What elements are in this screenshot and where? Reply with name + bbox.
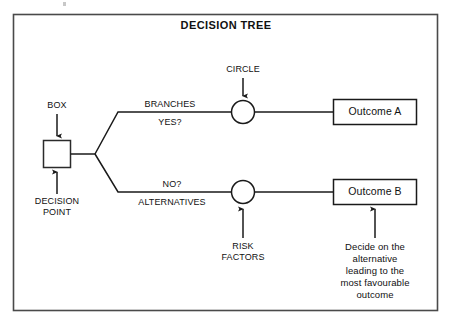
decision-point-label-line1: DECISION (35, 196, 79, 207)
circle-label: CIRCLE (226, 64, 260, 75)
chance-node-top-circle (232, 101, 255, 124)
outcome-a-label: Outcome A (349, 106, 402, 117)
branches-label: BRANCHES (145, 99, 196, 110)
outcome-b-label: Outcome B (348, 186, 401, 197)
page-title: DECISION TREE (181, 20, 272, 31)
box-label: BOX (47, 100, 66, 111)
caption-line-5: outcome (356, 289, 393, 301)
decision-tree-diagram: DECISION TREE BOX DECISION POINT CIRCLE … (0, 0, 453, 323)
risk-factors-label-line2: FACTORS (221, 252, 264, 263)
decision-point-square (44, 141, 71, 168)
caption-line-1: Decide on the (345, 241, 405, 253)
chance-node-bottom-circle (232, 181, 255, 204)
caption-line-2: alternative (353, 253, 398, 265)
decision-point-label-line2: POINT (43, 207, 71, 218)
risk-factors-label-line1: RISK (232, 241, 253, 252)
alternatives-label: ALTERNATIVES (138, 197, 205, 208)
yes-label: YES? (158, 117, 181, 128)
no-label: NO? (163, 179, 182, 190)
caption-line-3: leading to the (346, 265, 404, 277)
caption-line-4: most favourable (340, 277, 409, 289)
